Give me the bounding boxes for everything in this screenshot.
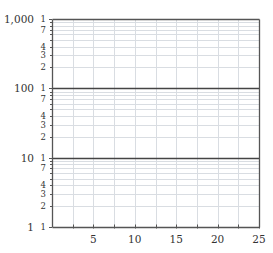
minor-gridlines: [52, 19, 259, 227]
y-minor-label: 3: [41, 120, 46, 130]
y-axis-ticks: [49, 20, 52, 228]
y-minor-label: 7: [41, 163, 46, 173]
x-tick-label: 10: [128, 233, 141, 245]
y-minor-label: 1: [41, 222, 46, 232]
y-minor-label: 4: [41, 42, 46, 52]
y-minor-label: 2: [41, 62, 46, 72]
x-tick-label: 20: [211, 233, 224, 245]
x-axis-labels: 510152025: [90, 233, 266, 245]
y-decade-label: 10: [21, 152, 34, 164]
y-minor-label: 2: [41, 201, 46, 211]
semilog-chart: 12347123471234711101001,000 510152025: [0, 0, 273, 253]
y-minor-label: 1: [41, 153, 46, 163]
y-minor-label: 1: [41, 14, 46, 24]
y-minor-label: 4: [41, 111, 46, 121]
x-tick-label: 25: [252, 233, 265, 245]
y-minor-label: 2: [41, 132, 46, 142]
x-tick-label: 15: [170, 233, 183, 245]
y-decade-label: 1,000: [4, 13, 34, 25]
y-decade-label: 100: [14, 82, 34, 94]
y-decade-label: 1: [27, 221, 34, 233]
y-axis-labels: 12347123471234711101001,000: [4, 13, 46, 233]
y-minor-label: 3: [41, 189, 46, 199]
y-minor-label: 4: [41, 180, 46, 190]
y-minor-label: 7: [41, 25, 46, 35]
y-minor-label: 7: [41, 94, 46, 104]
y-minor-label: 3: [41, 50, 46, 60]
x-tick-label: 5: [90, 233, 97, 245]
y-minor-label: 1: [41, 83, 46, 93]
